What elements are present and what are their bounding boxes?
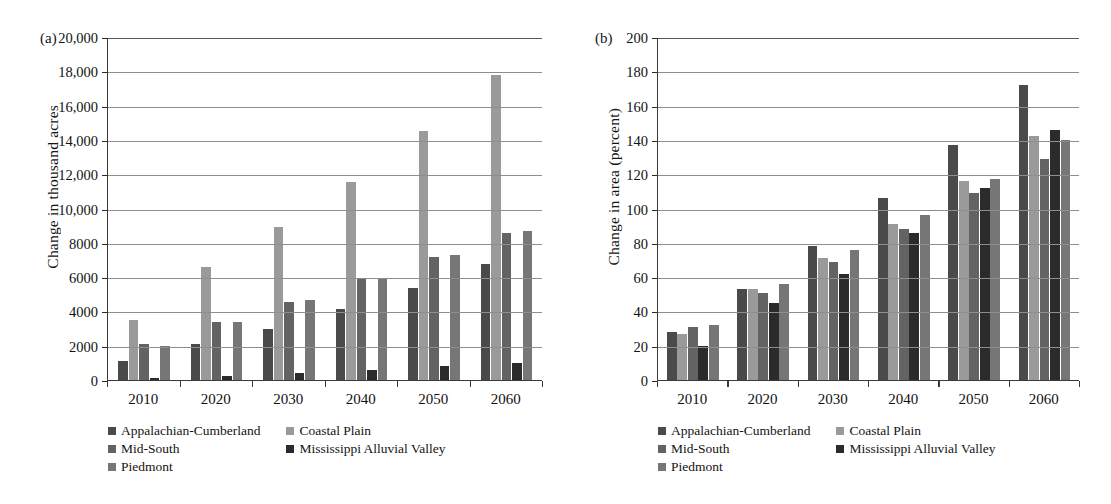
x-tick-mark: [107, 381, 108, 387]
bar: [920, 215, 930, 380]
gridline: [108, 312, 542, 313]
bar: [502, 233, 512, 380]
bar: [129, 320, 139, 380]
legend-label: Piedmont: [121, 460, 173, 475]
legend-swatch-icon: [658, 463, 666, 471]
bar: [709, 325, 719, 380]
bar: [212, 322, 222, 380]
panel-b-legend: Appalachian-CumberlandCoastal PlainMid-S…: [658, 424, 995, 475]
legend-label: Coastal Plain: [299, 424, 371, 439]
chart-panel-a: (a) Change in thousand acres 02000400060…: [0, 0, 555, 504]
gridline: [658, 278, 1079, 279]
bar: [512, 363, 522, 380]
bar: [850, 250, 860, 380]
bar: [491, 75, 501, 380]
chart-panel-b: (b) Change in area (percent) 02040608010…: [555, 0, 1110, 504]
panel-a-plot-area: [107, 38, 542, 381]
legend-item: Appalachian-Cumberland: [108, 424, 260, 439]
bar: [769, 303, 779, 380]
legend-swatch-icon: [108, 445, 116, 453]
legend-item: Mississippi Alluvial Valley: [286, 442, 445, 457]
gridline: [658, 244, 1079, 245]
x-tick-mark: [397, 381, 398, 387]
gridline: [658, 141, 1079, 142]
bar: [357, 279, 367, 380]
gridline: [108, 38, 542, 39]
bar: [758, 293, 768, 380]
y-tick-label: 20: [634, 338, 649, 355]
gridline: [108, 175, 542, 176]
gridline: [108, 347, 542, 348]
bar: [829, 262, 839, 380]
legend-item: Coastal Plain: [836, 424, 995, 439]
y-tick-label: 12,000: [58, 167, 98, 184]
bar: [150, 378, 160, 380]
x-tick-mark: [727, 381, 728, 387]
legend-swatch-icon: [108, 427, 116, 435]
legend-spacer: [286, 460, 445, 475]
legend-item: Mid-South: [108, 442, 260, 457]
bar: [191, 344, 201, 380]
legend-label: Mid-South: [671, 442, 730, 457]
x-tick-mark: [325, 381, 326, 387]
gridline: [108, 278, 542, 279]
gridline: [108, 107, 542, 108]
x-tick-mark: [470, 381, 471, 387]
y-tick-label: 2000: [69, 338, 98, 355]
panel-a-legend: Appalachian-CumberlandCoastal PlainMid-S…: [108, 424, 445, 475]
bar: [888, 224, 898, 380]
x-tick-mark: [252, 381, 253, 387]
legend-label: Mid-South: [121, 442, 180, 457]
bar: [839, 274, 849, 380]
x-tick-label: 2050: [418, 391, 448, 408]
gridline: [658, 347, 1079, 348]
x-tick-label: 2020: [201, 391, 231, 408]
bar: [160, 346, 170, 380]
bar: [677, 334, 687, 380]
bar: [429, 257, 439, 380]
x-tick-label: 2010: [128, 391, 158, 408]
gridline: [658, 210, 1079, 211]
figure-root: (a) Change in thousand acres 02000400060…: [0, 0, 1111, 504]
x-tick-label: 2050: [959, 391, 989, 408]
y-tick-label: 4000: [69, 304, 98, 321]
x-tick-label: 2060: [491, 391, 521, 408]
bar: [980, 188, 990, 380]
x-tick-mark: [1009, 381, 1010, 387]
x-tick-mark: [938, 381, 939, 387]
legend-label: Mississippi Alluvial Valley: [299, 442, 445, 457]
bar: [295, 373, 305, 380]
bar: [1050, 130, 1060, 380]
legend-label: Appalachian-Cumberland: [121, 424, 260, 439]
legend-item: Appalachian-Cumberland: [658, 424, 810, 439]
bar: [440, 366, 450, 380]
bar: [779, 284, 789, 380]
legend-swatch-icon: [286, 445, 294, 453]
gridline: [658, 38, 1079, 39]
bar: [959, 181, 969, 380]
legend-item: Coastal Plain: [286, 424, 445, 439]
x-tick-mark: [1079, 381, 1080, 387]
bar: [481, 264, 491, 380]
bar: [263, 329, 273, 380]
legend-label: Appalachian-Cumberland: [671, 424, 810, 439]
y-tick-label: 14,000: [58, 132, 98, 149]
gridline: [658, 72, 1079, 73]
legend-swatch-icon: [658, 445, 666, 453]
bar: [408, 288, 418, 380]
y-tick-label: 180: [626, 64, 648, 81]
legend-item: Mississippi Alluvial Valley: [836, 442, 995, 457]
bar: [1019, 85, 1029, 380]
bar: [346, 182, 356, 380]
bar: [222, 376, 232, 380]
legend-item: Piedmont: [108, 460, 260, 475]
bar: [698, 346, 708, 380]
panel-a-y-ticks: 0200040006000800010,00012,00014,00016,00…: [0, 0, 104, 504]
y-tick-label: 60: [634, 270, 649, 287]
legend-label: Piedmont: [671, 460, 723, 475]
y-tick-label: 6000: [69, 270, 98, 287]
x-tick-label: 2010: [677, 391, 707, 408]
bar: [201, 267, 211, 380]
legend-swatch-icon: [658, 427, 666, 435]
legend-item: Mid-South: [658, 442, 810, 457]
